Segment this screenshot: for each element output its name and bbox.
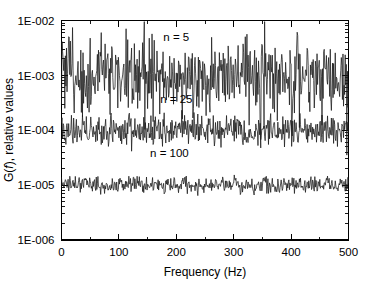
x-tick-label: 400: [282, 246, 301, 258]
x-tick-label: 500: [339, 246, 358, 258]
x-tick-label: 200: [167, 246, 186, 258]
annotation-label: n = 100: [150, 147, 189, 159]
x-tick-label: 300: [224, 246, 243, 258]
y-tick-label: 1E-006: [17, 234, 54, 246]
spectrum-figure: 1E-0021E-0031E-0041E-0051E-006 010020030…: [0, 0, 370, 292]
y-tick-label: 1E-004: [17, 124, 55, 136]
spectrum-plot-svg: 1E-0021E-0031E-0041E-0051E-006 010020030…: [0, 0, 370, 292]
y-tick-label: 1E-002: [17, 15, 54, 27]
annotation-label: n = 25: [160, 93, 192, 105]
y-axis-title-post: ), relative values: [2, 78, 16, 165]
x-tick-label: 0: [58, 246, 64, 258]
y-axis-title: G(f), relative values: [2, 78, 16, 182]
y-tick-label: 1E-005: [17, 179, 54, 191]
x-axis-title: Frequency (Hz): [164, 265, 247, 279]
annotation-label: n = 5: [163, 31, 189, 43]
y-tick-label: 1E-003: [17, 70, 54, 82]
y-axis-title-pre: G(: [2, 169, 16, 182]
x-tick-label: 100: [109, 246, 128, 258]
